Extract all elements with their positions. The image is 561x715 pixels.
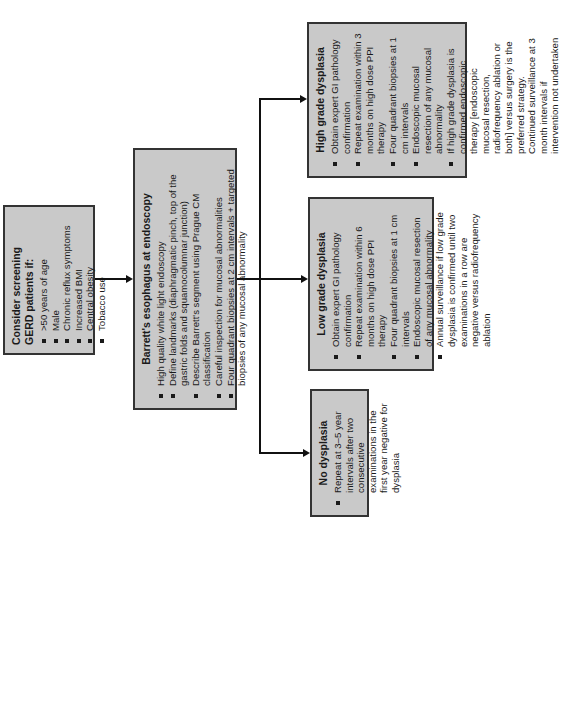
branch-line-high [259, 98, 301, 100]
list-item: Obtain expert GI pathology confirmation [329, 32, 352, 168]
branch-line-low [259, 278, 302, 280]
list-item: Repeat examination within 3 months on hi… [352, 32, 387, 168]
screening-box: Consider screening GERD patients if: >50… [3, 205, 95, 355]
low-grade-title: Low grade dysplasia [315, 207, 328, 361]
barretts-box: Barrett's esophagus at endoscopy High qu… [133, 148, 237, 410]
list-item: Careful inspection for mucosal abnormali… [213, 158, 225, 400]
no-dysplasia-title: No dysplasia [317, 399, 330, 507]
list-item: Endoscopic mucosal resection of any muco… [411, 207, 434, 361]
branch-trunk-line [259, 98, 261, 454]
barretts-list: High quality white light endoscopy Defin… [155, 158, 248, 400]
list-item: Describe Barrett's segment using Prague … [190, 158, 213, 400]
branch-line-none [259, 452, 304, 454]
arrow-head-icon [301, 275, 308, 283]
list-item: Annual surveillance if low grade dysplas… [434, 207, 492, 361]
list-item: Obtain expert GI pathology confirmation [330, 207, 353, 361]
arrow-head-icon [300, 95, 307, 103]
list-item: If high grade dysplasia is confirmed end… [445, 32, 561, 168]
list-item: Increased BMI [73, 215, 85, 345]
list-item: Tobacco use [96, 215, 108, 345]
screening-title: Consider screening GERD patients if: [10, 215, 36, 345]
list-item: Central obesity [84, 215, 96, 345]
list-item: Repeat examination within 6 months on hi… [353, 207, 388, 361]
low-grade-dysplasia-box: Low grade dysplasia Obtain expert GI pat… [308, 197, 434, 371]
list-item: Chronic reflux symptoms [61, 215, 73, 345]
arrow-head-icon [126, 275, 133, 283]
list-item: High quality white light endoscopy [155, 158, 167, 400]
list-item: Define landmarks (diaphragmatic pinch, t… [167, 158, 190, 400]
list-item: Four quadrant biopsies at 1 cm intervals [387, 32, 410, 168]
list-item: Endoscopic mucosal resection of any muco… [410, 32, 445, 168]
no-dysplasia-list: Repeat at 3–5 year intervals after two c… [332, 399, 402, 507]
connector-line [237, 278, 261, 280]
no-dysplasia-box: No dysplasia Repeat at 3–5 year interval… [310, 389, 369, 517]
list-item: Four quadrant biopsies at 1 cm intervals [388, 207, 411, 361]
low-grade-list: Obtain expert GI pathology confirmation … [330, 207, 492, 361]
screening-list: >50 years of age Male Chronic reflux sym… [38, 215, 108, 345]
high-grade-dysplasia-box: High grade dysplasia Obtain expert GI pa… [307, 22, 467, 178]
high-grade-list: Obtain expert GI pathology confirmation … [329, 32, 561, 168]
arrow-head-icon [303, 449, 310, 457]
high-grade-title: High grade dysplasia [314, 32, 327, 168]
connector-line [95, 278, 126, 280]
list-item: Repeat at 3–5 year intervals after two c… [332, 399, 402, 507]
list-item: Male [50, 215, 62, 345]
list-item: >50 years of age [38, 215, 50, 345]
barretts-title: Barrett's esophagus at endoscopy [140, 158, 153, 400]
